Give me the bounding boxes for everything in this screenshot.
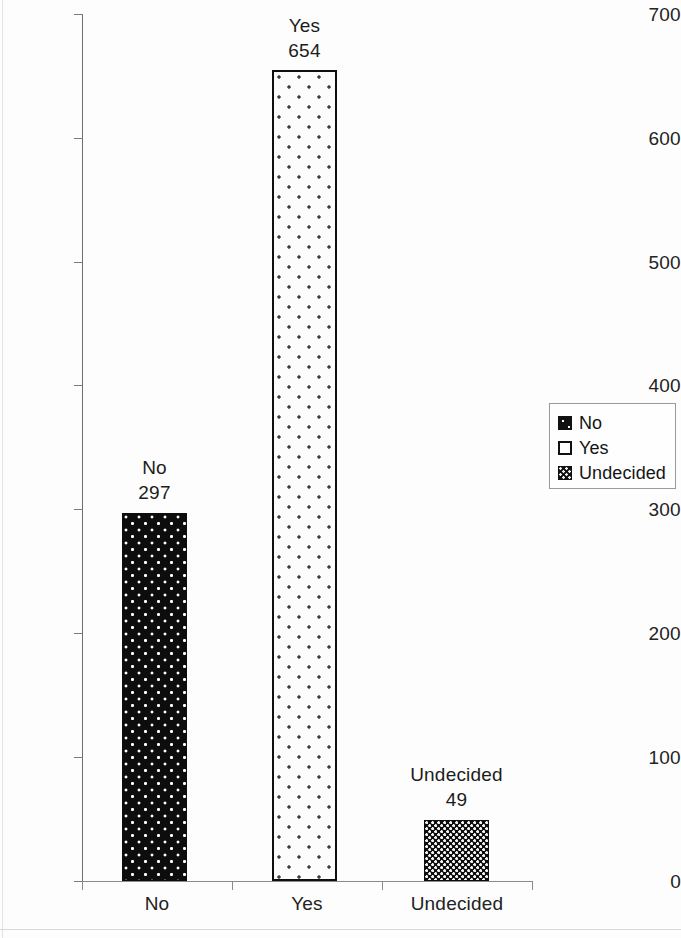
scan-edge-bottom [0,929,681,930]
bar-chart: 700 600 500 400 300 200 100 0 No Yes Und… [0,0,681,938]
x-axis-tick [532,881,533,890]
y-axis-tick-label: 300 [619,500,681,519]
bar-label-undecided-name: Undecided [384,762,529,787]
y-axis-tick-label: 200 [619,624,681,643]
y-axis-tick [74,633,83,634]
bar-label-no-name: No [92,455,217,480]
y-axis-line [82,14,83,882]
bar-no[interactable] [122,513,187,881]
bar-label-undecided-value: 49 [384,787,529,812]
y-axis-tick [74,509,83,510]
y-axis-tick [74,757,83,758]
bar-yes[interactable] [272,70,337,881]
bar-label-yes-value: 654 [242,38,367,63]
bar-label-undecided: Undecided 49 [384,762,529,812]
y-axis-tick-label: 0 [619,872,681,891]
x-axis-category-label-undecided: Undecided [382,893,532,915]
y-axis-tick [74,385,83,386]
x-axis-category-label-yes: Yes [232,893,382,915]
bar-undecided[interactable] [424,820,489,881]
y-axis-tick [74,14,83,15]
y-axis-tick [74,262,83,263]
y-axis-tick-label: 500 [619,253,681,272]
y-axis-tick-label: 100 [619,748,681,767]
legend-swatch-undecided-icon [558,466,572,480]
y-axis-tick-label: 400 [619,376,681,395]
legend-label-undecided: Undecided [579,464,666,482]
x-axis-tick [232,881,233,890]
legend-label-yes: Yes [579,439,609,457]
y-axis-tick-label: 600 [619,129,681,148]
legend-label-no: No [579,414,602,432]
x-axis-tick [82,881,83,890]
y-axis-tick [74,138,83,139]
bar-label-no-value: 297 [92,480,217,505]
legend-item-undecided[interactable]: Undecided [558,461,675,485]
legend-swatch-yes-icon [558,441,572,455]
legend-swatch-no-icon [558,416,572,430]
bar-label-no: No 297 [92,455,217,505]
legend-item-no[interactable]: No [558,411,675,435]
legend-item-yes[interactable]: Yes [558,436,675,460]
x-axis-category-label-no: No [82,893,232,915]
scan-edge-left [2,0,3,938]
y-axis-tick-label: 700 [619,5,681,24]
x-axis-line [82,881,532,882]
legend: No Yes Undecided [549,403,676,489]
bar-label-yes-name: Yes [242,13,367,38]
bar-label-yes: Yes 654 [242,13,367,63]
x-axis-tick [382,881,383,890]
